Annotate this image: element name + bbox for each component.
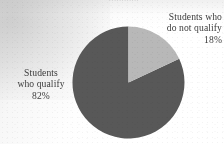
label-do-not-qualify-line2: do not qualify xyxy=(144,22,222,33)
label-qualify: Students who qualify 82% xyxy=(6,67,76,101)
pie-chart-figure: ............ Students who do not qualify… xyxy=(0,0,224,144)
cropped-title-remnant: ............ xyxy=(78,0,170,2)
label-qualify-line1: Students xyxy=(6,67,76,78)
label-qualify-percent: 82% xyxy=(6,90,76,101)
label-do-not-qualify-percent: 18% xyxy=(144,34,222,45)
label-do-not-qualify-line1: Students who xyxy=(144,11,222,22)
label-do-not-qualify: Students who do not qualify 18% xyxy=(144,11,222,45)
label-qualify-line2: who qualify xyxy=(6,78,76,89)
